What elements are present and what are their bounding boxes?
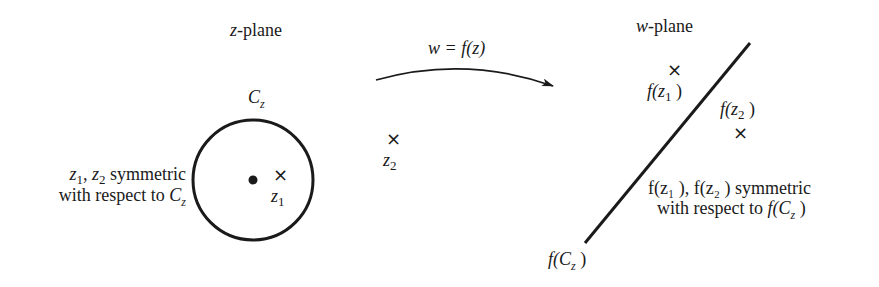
fz2-label: f(z2 ): [720, 99, 755, 122]
z1-marker-icon: ×: [273, 164, 288, 185]
contour-label: Cz: [248, 87, 265, 111]
z-symmetric-note-line2: with respect to Cz: [59, 185, 187, 209]
z2-label: z2: [382, 150, 397, 173]
center-dot: [249, 176, 258, 185]
fz1-label: f(z1 ): [647, 81, 682, 104]
z1-label: z1: [270, 186, 285, 209]
fz1-marker-icon: ×: [667, 59, 682, 80]
conformal-mapping-diagram: z-plane Cz × z1 z1, z2 symmetric with re…: [0, 0, 879, 287]
mapping-arrow: [376, 69, 553, 86]
w-symmetric-note-line2: with respect to f(Cz ): [657, 198, 806, 222]
w-plane-title: w-plane: [636, 16, 693, 36]
image-line-label: f(Cz ): [548, 249, 586, 273]
z-plane-title: z-plane: [229, 20, 282, 40]
z-symmetric-note-line1: z1, z2 symmetric: [68, 164, 186, 187]
fz2-marker-icon: ×: [733, 122, 748, 143]
mapping-label: w = f(z): [428, 38, 485, 59]
w-symmetric-note-line1: f(z₁ ), f(z₂ ) symmetric: [648, 178, 811, 199]
z2-marker-icon: ×: [386, 128, 401, 149]
